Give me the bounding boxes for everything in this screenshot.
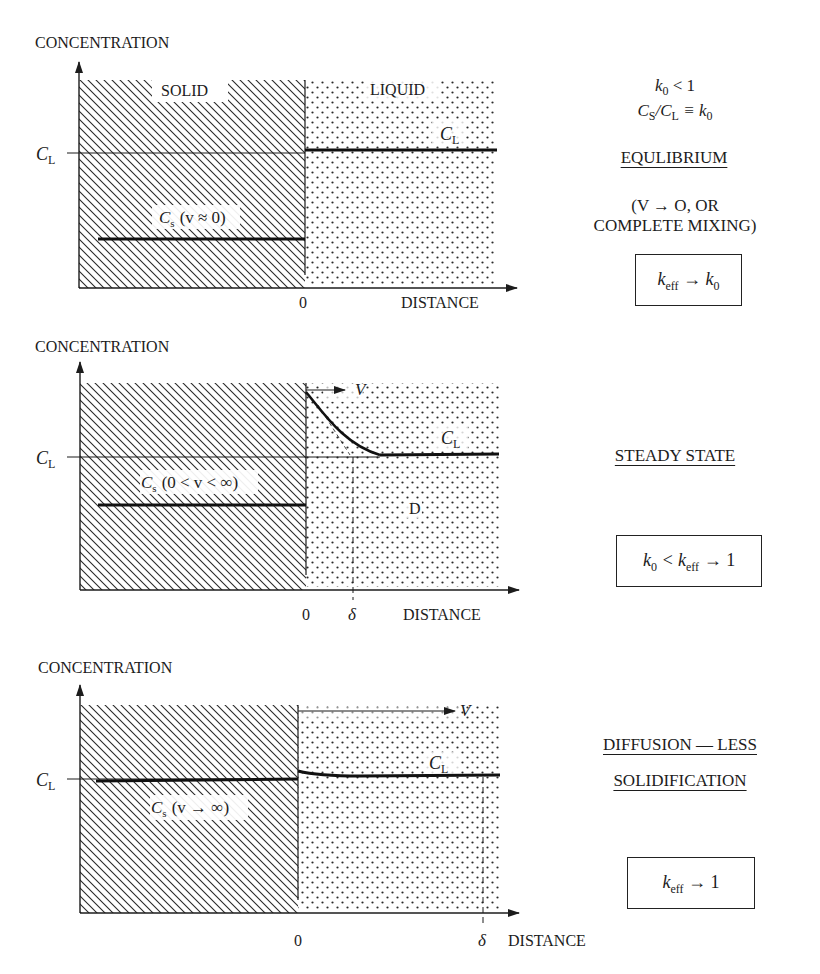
- keff-box-equilibrium: keff → k0: [635, 254, 742, 306]
- y-axis-label: CONCENTRATION: [38, 659, 173, 676]
- equilibrium-title: EQULIBRIUM: [612, 148, 736, 168]
- liquid-label: LIQUID: [370, 81, 425, 98]
- k0-condition: k0 < 1: [600, 76, 750, 101]
- y-axis-label: CONCENTRATION: [35, 34, 170, 51]
- equilibrium-conditions: k0 < 1 CS/CL ≡ k0: [600, 76, 750, 127]
- x-axis-label: DISTANCE: [508, 932, 586, 949]
- solid-region: [79, 80, 305, 288]
- cl-tick-label: CL: [36, 770, 55, 793]
- solid-concentration-line: [96, 779, 298, 781]
- diffusionless-title-line2: SOLIDIFICATION: [590, 771, 770, 791]
- origin-label: 0: [302, 606, 310, 623]
- panel-diffusionless: CONCENTRATION V CL CL Cs(v → ∞) 0 δ DIST…: [36, 659, 586, 950]
- x-axis-label: DISTANCE: [403, 606, 481, 623]
- partition-definition: CS/CL ≡ k0: [600, 101, 750, 126]
- panel-steady-state: CONCENTRATION V CL CL Cs(0 < v < ∞) D 0 …: [35, 338, 519, 624]
- x-axis-label: DISTANCE: [401, 294, 479, 311]
- keff-box-diffusionless: keff → 1: [627, 857, 755, 909]
- cs-label: Cs(v ≈ 0): [159, 208, 226, 229]
- y-axis-label: CONCENTRATION: [35, 338, 170, 355]
- diffusion-label: D: [409, 500, 421, 517]
- equilibrium-note: (V → O, OR COMPLETE MIXING): [580, 196, 770, 236]
- cl-tick-label: CL: [36, 144, 55, 167]
- liquid-region: [306, 383, 499, 587]
- cl-tick-label: CL: [36, 448, 55, 471]
- origin-label: 0: [299, 294, 307, 311]
- liquid-region: [305, 80, 495, 285]
- steady-state-title: STEADY STATE: [600, 446, 750, 466]
- keff-box-steady-state: k0 < keff → 1: [616, 535, 762, 587]
- solute-redistribution-diagram: CONCENTRATION SOLID LIQUID CL CL Cs(v ≈ …: [0, 0, 820, 974]
- diffusionless-title-line1: DIFFUSION — LESS: [580, 735, 780, 755]
- delta-label: δ: [348, 605, 357, 624]
- solid-label: SOLID: [161, 82, 208, 99]
- liquid-region: [298, 705, 500, 910]
- panel-equilibrium: CONCENTRATION SOLID LIQUID CL CL Cs(v ≈ …: [35, 34, 517, 311]
- liquid-concentration-line: [380, 454, 499, 455]
- delta-label: δ: [478, 931, 487, 950]
- origin-label: 0: [294, 932, 302, 949]
